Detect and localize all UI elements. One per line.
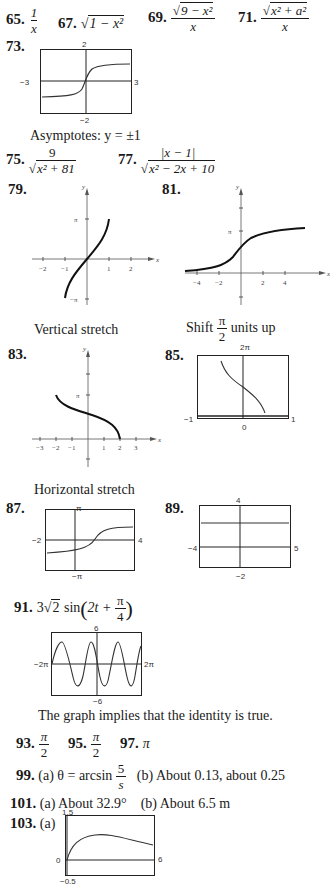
answer-89-label: 89. xyxy=(165,500,184,517)
svg-text:3: 3 xyxy=(134,444,138,452)
graph-81: y x π −4 −2 2 4 xyxy=(185,183,330,308)
answer-69: 69. √9 − x²x xyxy=(148,4,215,33)
svg-text:1: 1 xyxy=(102,444,106,452)
svg-text:x: x xyxy=(155,256,160,264)
answer-93: 93. π2 xyxy=(16,730,49,759)
answer-99: 99. (a) θ = arcsin 5s (b) About 0.13, ab… xyxy=(16,762,285,791)
graph-87 xyxy=(45,509,135,571)
svg-text:−4: −4 xyxy=(193,279,201,287)
answer-83-label: 83. xyxy=(8,346,27,363)
svg-text:−1: −1 xyxy=(61,265,69,273)
svg-text:2: 2 xyxy=(261,279,265,287)
svg-text:y: y xyxy=(82,345,87,353)
answer-103: 103. (a) xyxy=(10,815,55,832)
answer-97: 97. π xyxy=(120,734,150,752)
graph-103 xyxy=(65,815,155,876)
svg-text:−π: −π xyxy=(70,296,78,304)
answer-71: 71. √x² + a²x xyxy=(238,4,309,33)
answer-79-label: 79. xyxy=(8,181,27,198)
caption-81: Shift π2 units up xyxy=(186,314,276,343)
caption-83: Horizontal stretch xyxy=(34,482,135,498)
answer-85-label: 85. xyxy=(165,347,184,364)
svg-text:−2: −2 xyxy=(52,444,60,452)
answer-91: 91. 3√2 sin(2t + π4) xyxy=(14,594,133,623)
svg-text:π: π xyxy=(74,216,78,224)
answer-101: 101. (a) About 32.9° (b) About 6.5 m xyxy=(10,795,230,812)
answer-87-label: 87. xyxy=(6,500,25,517)
svg-text:y: y xyxy=(81,183,86,191)
answer-95: 95. π2 xyxy=(68,730,101,759)
svg-text:−3: −3 xyxy=(36,444,44,452)
svg-text:π: π xyxy=(228,228,232,236)
svg-text:2: 2 xyxy=(129,265,133,273)
answer-73-label: 73. xyxy=(6,38,25,55)
svg-text:−2: −2 xyxy=(39,265,47,273)
caption-73: Asymptotes: y = ±1 xyxy=(30,128,141,144)
answer-81-label: 81. xyxy=(162,181,181,198)
graph-91 xyxy=(51,632,142,696)
svg-text:1: 1 xyxy=(107,265,111,273)
answer-67: 67. √1 − x² xyxy=(58,14,124,32)
svg-text:π: π xyxy=(76,392,80,400)
answer-75: 75. 9√x² + 81 xyxy=(6,146,76,175)
graph-89 xyxy=(199,505,291,568)
svg-text:y: y xyxy=(235,183,240,191)
graph-85 xyxy=(197,355,289,419)
svg-text:4: 4 xyxy=(283,279,287,287)
graph-79: y x π −π −2 −1 1 2 xyxy=(30,183,160,308)
answer-65: 65. 1x xyxy=(6,6,39,35)
svg-text:x: x xyxy=(157,436,162,444)
graph-83: y x π −3 −2 −1 1 2 3 xyxy=(30,345,160,470)
svg-text:−2: −2 xyxy=(215,279,223,287)
caption-79: Vertical stretch xyxy=(34,322,118,338)
caption-91: The graph implies that the identity is t… xyxy=(38,708,273,724)
answer-77: 77. |x − 1|√x² − 2x + 10 xyxy=(118,146,215,175)
svg-text:2: 2 xyxy=(118,444,122,452)
svg-text:−1: −1 xyxy=(68,444,76,452)
graph-73 xyxy=(40,49,132,114)
svg-text:x: x xyxy=(326,270,330,278)
